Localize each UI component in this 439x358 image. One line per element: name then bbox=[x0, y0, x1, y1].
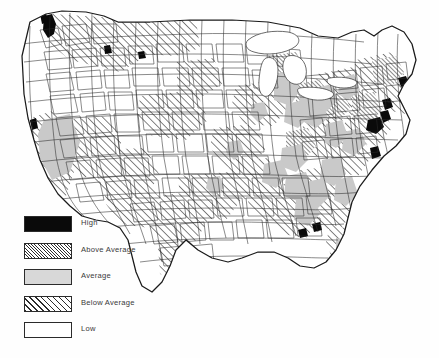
legend-swatch-high bbox=[24, 216, 72, 232]
legend-label-average: Average bbox=[81, 271, 111, 280]
map-legend: High Above Average Average Below Average… bbox=[24, 216, 214, 349]
legend-label-high: High bbox=[81, 218, 98, 227]
legend-swatch-below-average bbox=[24, 296, 72, 312]
legend-label-low: Low bbox=[81, 324, 96, 333]
legend-label-above-average: Above Average bbox=[81, 245, 136, 254]
legend-swatch-average bbox=[24, 269, 72, 285]
choropleth-map-figure: High Above Average Average Below Average… bbox=[0, 0, 439, 358]
legend-row-low: Low bbox=[24, 322, 214, 349]
legend-swatch-above-average bbox=[24, 243, 72, 259]
screenshot-root: High Above Average Average Below Average… bbox=[0, 0, 439, 358]
legend-row-below-average: Below Average bbox=[24, 296, 214, 323]
legend-row-high: High bbox=[24, 216, 214, 243]
legend-swatch-low bbox=[24, 322, 72, 338]
legend-label-below-average: Below Average bbox=[81, 298, 135, 307]
legend-row-above-average: Above Average bbox=[24, 243, 214, 270]
legend-row-average: Average bbox=[24, 269, 214, 296]
